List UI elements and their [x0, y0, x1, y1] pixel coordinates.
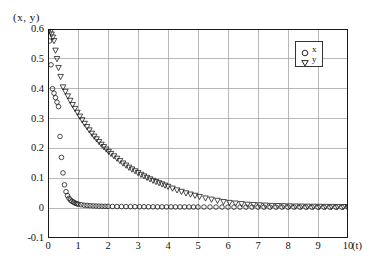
y-tick-label: 0.4 [2, 84, 44, 94]
x-tick-label: 2 [93, 240, 123, 252]
x-tick-label: 7 [243, 240, 273, 252]
triangle-down-marker-icon [299, 54, 311, 64]
y-tick-label: 0.5 [2, 54, 44, 64]
y-tick-label: 0 [2, 203, 44, 213]
y-axis-label: (x, y) [13, 11, 40, 23]
x-tick-label: 5 [183, 240, 213, 252]
circle-marker-icon [299, 44, 311, 54]
x-axis-label: (t) [352, 240, 362, 252]
y-tick-label: 0.3 [2, 114, 44, 124]
x-tick-label: 0 [33, 240, 63, 252]
x-tick-label: 1 [63, 240, 93, 252]
legend-entry-y: y [299, 54, 317, 64]
x-tick-label: 4 [153, 240, 183, 252]
x-tick-label: 8 [273, 240, 303, 252]
y-tick-label: 0.2 [2, 143, 44, 153]
chart-figure: (x, y) 0.60.50.40.30.20.10-0.1 012345678… [0, 0, 379, 276]
x-tick-label: 9 [303, 240, 333, 252]
chart-legend: x y [295, 41, 323, 67]
y-tick-label: 0.6 [2, 24, 44, 34]
y-tick-label: 0.1 [2, 173, 44, 183]
x-tick-label: 3 [123, 240, 153, 252]
legend-label-y: y [311, 55, 317, 64]
x-axis-tick-labels: 012345678910 [48, 240, 348, 256]
legend-entry-x: x [299, 44, 317, 54]
y-axis-tick-labels: 0.60.50.40.30.20.10-0.1 [0, 29, 44, 238]
legend-label-x: x [311, 45, 317, 54]
x-tick-label: 6 [213, 240, 243, 252]
